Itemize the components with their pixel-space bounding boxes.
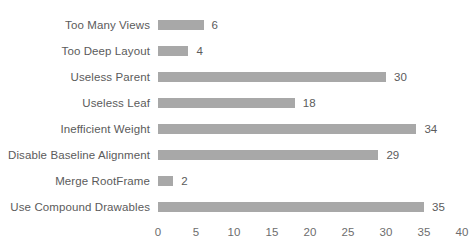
bar-value-label: 2	[181, 168, 187, 194]
x-axis-tick-label: 5	[193, 222, 199, 242]
x-axis-tick-label: 20	[304, 222, 317, 242]
table-row: Too Deep Layout 4	[0, 38, 474, 64]
bar	[158, 150, 378, 160]
bar-value-label: 18	[303, 90, 316, 116]
bar	[158, 202, 424, 212]
table-row: Disable Baseline Alignment 29	[0, 142, 474, 168]
category-label: Too Many Views	[0, 12, 150, 38]
x-axis-tick-label: 25	[342, 222, 355, 242]
x-axis-tick-label: 30	[380, 222, 393, 242]
category-label: Useless Parent	[0, 64, 150, 90]
bar-value-label: 34	[424, 116, 437, 142]
bar	[158, 20, 204, 30]
x-axis: 0 5 10 15 20 25 30 35 40	[0, 222, 474, 244]
bar-value-label: 4	[196, 38, 202, 64]
bar	[158, 72, 386, 82]
table-row: Use Compound Drawables 35	[0, 194, 474, 220]
category-label: Use Compound Drawables	[0, 194, 150, 220]
table-row: Useless Parent 30	[0, 64, 474, 90]
table-row: Too Many Views 6	[0, 12, 474, 38]
bar-value-label: 6	[212, 12, 218, 38]
x-axis-tick-label: 35	[418, 222, 431, 242]
bar	[158, 176, 173, 186]
category-label: Useless Leaf	[0, 90, 150, 116]
x-axis-tick-label: 10	[228, 222, 241, 242]
bar	[158, 98, 295, 108]
bar	[158, 124, 416, 134]
table-row: Merge RootFrame 2	[0, 168, 474, 194]
bar-value-label: 29	[386, 142, 399, 168]
category-label: Inefficient Weight	[0, 116, 150, 142]
bar	[158, 46, 188, 56]
bar-value-label: 35	[432, 194, 445, 220]
plot-area: Too Many Views 6 Too Deep Layout 4 Usele…	[0, 0, 474, 252]
bar-value-label: 30	[394, 64, 407, 90]
table-row: Useless Leaf 18	[0, 90, 474, 116]
category-label: Disable Baseline Alignment	[0, 142, 150, 168]
x-axis-tick-label: 15	[266, 222, 279, 242]
category-label: Too Deep Layout	[0, 38, 150, 64]
bar-chart: Too Many Views 6 Too Deep Layout 4 Usele…	[0, 0, 474, 252]
category-label: Merge RootFrame	[0, 168, 150, 194]
x-axis-tick-label: 0	[155, 222, 161, 242]
x-axis-tick-label: 40	[456, 222, 469, 242]
table-row: Inefficient Weight 34	[0, 116, 474, 142]
